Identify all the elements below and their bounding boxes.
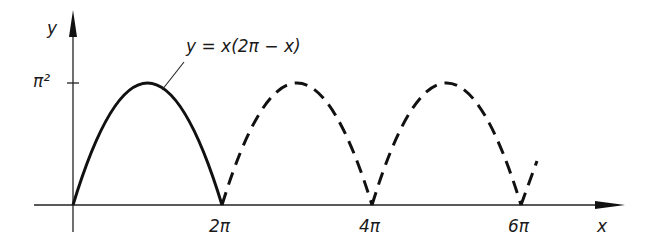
y-axis-label: y (47, 20, 57, 37)
dashed-curve-3 (521, 161, 537, 205)
x-tick-label-6pi: 6π (508, 218, 529, 235)
solid-curve (73, 83, 222, 205)
plot: y π² y = x(2π − x) 2π 4π 6π x (0, 0, 650, 246)
equation-leader-line (162, 62, 184, 90)
dashed-curve-2 (372, 83, 521, 205)
x-tick-label-2pi: 2π (209, 218, 230, 235)
x-tick-label-4pi: 4π (359, 218, 380, 235)
x-axis-arrow-icon (595, 201, 625, 209)
y-tick-label: π² (33, 73, 50, 90)
y-axis-arrow-icon (69, 10, 77, 37)
equation-label: y = x(2π − x) (186, 38, 301, 55)
dashed-curve-1 (222, 83, 372, 205)
x-axis-label: x (597, 218, 607, 235)
plot-graphics (0, 0, 650, 246)
